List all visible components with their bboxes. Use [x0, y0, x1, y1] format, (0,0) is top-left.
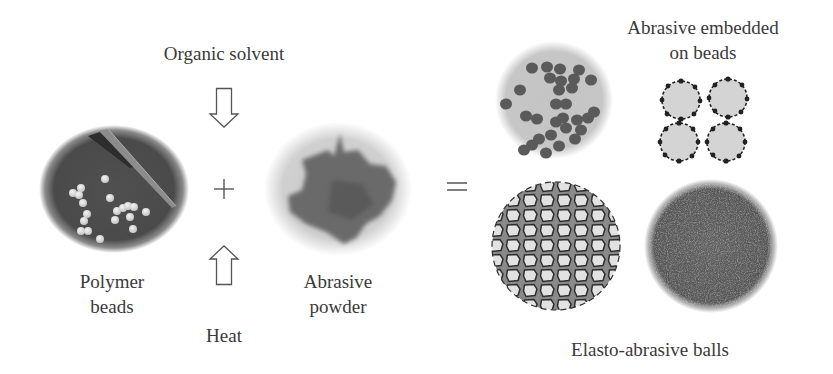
- polymer-beads-image: [38, 124, 190, 254]
- organic-solvent-label: Organic solvent: [140, 42, 308, 66]
- abrasive-powder-image: [262, 120, 414, 258]
- heat-label: Heat: [184, 324, 264, 348]
- polymer-beads-label-line1: Polymer: [60, 270, 164, 294]
- elasto-abrasive-schematic: [488, 178, 624, 314]
- abrasive-embedded-label-line2: on beads: [605, 41, 801, 65]
- abrasive-powder-label-line2: powder: [286, 295, 390, 319]
- equals-operator: [446, 180, 468, 194]
- polymer-beads-label-line2: beads: [60, 295, 164, 319]
- embedded-beads-schematic: [655, 74, 755, 170]
- arrow-up-icon: [208, 244, 240, 286]
- embedded-beads-micrograph: [493, 40, 615, 160]
- abrasive-powder-label-line1: Abrasive: [286, 270, 390, 294]
- elasto-abrasive-ball-image: [643, 178, 779, 314]
- abrasive-embedded-label-line1: Abrasive embedded: [605, 16, 801, 40]
- arrow-down-icon: [208, 87, 240, 129]
- plus-operator: [213, 178, 235, 200]
- elasto-abrasive-balls-label: Elasto-abrasive balls: [548, 338, 752, 362]
